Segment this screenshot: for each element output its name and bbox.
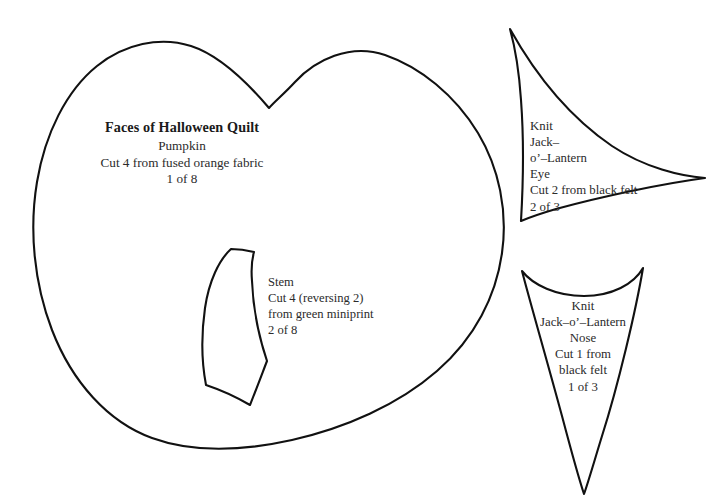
stem-label-instruction-2: from green miniprint: [268, 307, 374, 323]
nose-label-index: 1 of 3: [521, 379, 645, 395]
pumpkin-label-instruction: Cut 4 from fused orange fabric: [97, 155, 267, 172]
stem-label-part: Stem: [268, 275, 374, 291]
pattern-outlines: [0, 0, 709, 501]
nose-label-title-2: Jack–o’–Lantern: [521, 314, 645, 330]
eye-label-title-2: Jack–: [530, 134, 637, 150]
eye-label-title-1: Knit: [530, 118, 637, 134]
nose-label-instruction-1: Cut 1 from: [521, 346, 645, 362]
nose-label: Knit Jack–o’–Lantern Nose Cut 1 from bla…: [521, 298, 645, 395]
eye-label: Knit Jack– o’–Lantern Eye Cut 2 from bla…: [530, 118, 637, 215]
nose-label-part: Nose: [521, 330, 645, 346]
pumpkin-label: Faces of Halloween Quilt Pumpkin Cut 4 f…: [97, 119, 267, 188]
eye-label-part: Eye: [530, 166, 637, 182]
stem-label-index: 2 of 8: [268, 323, 374, 339]
stem-label: Stem Cut 4 (reversing 2) from green mini…: [268, 275, 374, 338]
nose-label-title-1: Knit: [521, 298, 645, 314]
eye-label-title-3: o’–Lantern: [530, 150, 637, 166]
pumpkin-label-title: Faces of Halloween Quilt: [97, 119, 267, 137]
stem-label-instruction-1: Cut 4 (reversing 2): [268, 291, 374, 307]
eye-label-index: 2 of 3: [530, 199, 637, 215]
pattern-sheet: Faces of Halloween Quilt Pumpkin Cut 4 f…: [0, 0, 709, 501]
nose-label-instruction-2: black felt: [521, 362, 645, 378]
pumpkin-outline: [33, 42, 504, 449]
pumpkin-label-index: 1 of 8: [97, 171, 267, 188]
eye-label-instruction: Cut 2 from black felt: [530, 182, 637, 198]
pumpkin-label-part: Pumpkin: [97, 138, 267, 155]
